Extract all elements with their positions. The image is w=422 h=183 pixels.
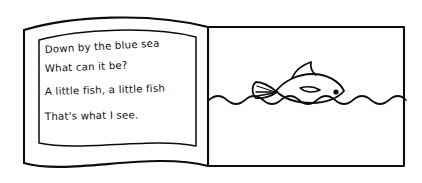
fish-eye [333, 89, 338, 94]
right-page-surface [208, 27, 404, 166]
book-illustration: Down by the blue sea What can it be? A l… [0, 0, 422, 183]
right-page [208, 27, 404, 166]
book-drawing: Down by the blue sea What can it be? A l… [0, 0, 422, 183]
poem-line-4: That's what I see. [44, 109, 139, 122]
